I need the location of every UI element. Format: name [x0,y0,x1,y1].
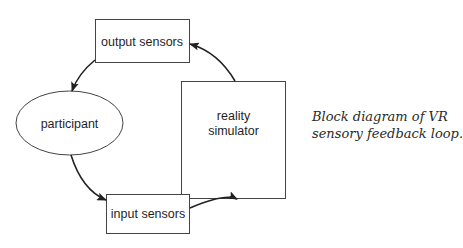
arrow-simulator-to-output [190,44,235,81]
output-sensors-node: output sensors [96,20,190,63]
participant-node: participant [16,91,123,155]
arrow-output-to-participant [72,60,95,91]
reality-simulator-label-line1: reality [217,109,251,123]
figure-caption: Block diagram of VR sensory feedback loo… [312,108,463,142]
reality-simulator-node: reality simulator [182,82,286,199]
caption-line-1: Block diagram of VR [312,108,463,125]
input-sensors-node: input sensors [107,195,190,234]
participant-label: participant [41,117,99,131]
reality-simulator-label-line2: simulator [208,124,259,138]
caption-line-2: sensory feedback loop. [312,125,463,142]
output-sensors-label: output sensors [101,35,183,49]
input-sensors-label: input sensors [111,207,185,221]
arrow-participant-to-input [71,155,106,200]
